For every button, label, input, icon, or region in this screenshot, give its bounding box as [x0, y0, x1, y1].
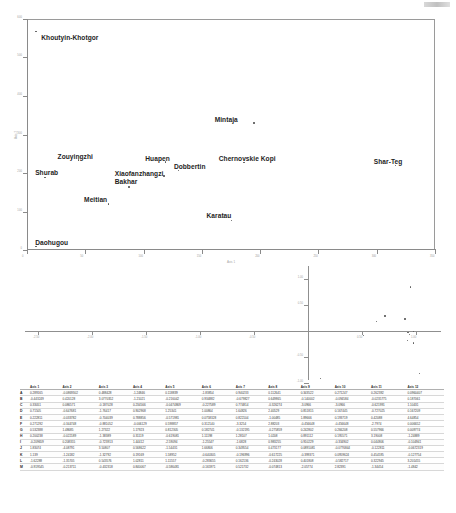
- table-cell: -0.165971: [202, 464, 236, 470]
- loadings-y-tick-label: 0.50: [298, 302, 303, 305]
- locality-label: Bakhar: [115, 178, 138, 185]
- scan-corner-mark: [424, 2, 450, 7]
- scanned-page: Axis 2 Axis 1 6005004003002001000 050100…: [0, 0, 456, 513]
- data-point: [395, 165, 397, 167]
- locality-label: Khoutyin-Khotgor: [41, 34, 98, 41]
- x-tick: 250: [318, 249, 319, 254]
- locality-label: Meitian: [84, 196, 107, 203]
- loadings-x-tick-label: -2.00: [87, 336, 93, 339]
- locality-label: Chernovskie Kopi: [219, 155, 276, 162]
- table-cell: -1.34454: [371, 464, 407, 470]
- locality-label: Shar-Teg: [374, 158, 403, 165]
- loadings-y-tick-label: -0.50: [297, 354, 303, 357]
- loadings-x-tick-label: -1.00: [195, 336, 201, 339]
- locality-label: Daohugou: [35, 239, 68, 246]
- locality-label: Zouyingzhi: [58, 153, 93, 160]
- data-point: [178, 170, 180, 172]
- loadings-y-tick: 0.50: [304, 305, 309, 306]
- x-tick: 50: [85, 249, 86, 254]
- loadings-y-tick: 1.00: [304, 279, 309, 280]
- x-tick-label: 250: [313, 255, 317, 258]
- table-cell: -1.4842: [407, 464, 444, 470]
- data-point: [163, 175, 165, 177]
- y-tick: 400: [23, 96, 28, 97]
- table-cell: -0.213711: [62, 464, 98, 470]
- data-point: [128, 186, 130, 188]
- loadings-x-tick-label: 0.50: [357, 336, 362, 339]
- coordinates-table: Axis 1Axis 2Axis 3Axis 4Axis 5Axis 6Axis…: [20, 384, 444, 471]
- y-tick-label: 500: [17, 54, 22, 57]
- y-tick-label: 400: [17, 93, 22, 96]
- table-cell: -0.432318: [99, 464, 133, 470]
- x-tick: 300: [377, 249, 378, 254]
- loadings-y-tick-label: 1.00: [298, 276, 303, 279]
- x-tick-label: 350: [430, 255, 434, 258]
- loadings-y-tick: -0.50: [304, 357, 309, 358]
- locality-label: Karatau: [207, 212, 232, 219]
- horizontal-axis-line: [25, 331, 441, 332]
- y-tick-label: 100: [17, 209, 22, 212]
- locality-ordination-scatter: Axis 2 Axis 1 6005004003002001000 050100…: [27, 19, 435, 250]
- x-axis-line: [27, 249, 435, 250]
- loadings-x-tick: -0.50: [254, 331, 255, 335]
- y-tick: 100: [23, 212, 28, 213]
- loadings-x-tick: -1.50: [146, 331, 147, 335]
- y-tick-label: 200: [17, 170, 22, 173]
- data-point: [44, 177, 46, 179]
- table-cell: -0.586481: [165, 464, 201, 470]
- vertical-axis-line: [308, 266, 309, 380]
- loadings-x-tick-label: 1.00: [411, 336, 416, 339]
- data-point: [35, 31, 37, 33]
- table-cell: -2.05774: [301, 464, 335, 470]
- locality-label: Xiaofanzhangzi: [115, 170, 164, 177]
- loadings-x-tick: 1.00: [416, 331, 417, 335]
- data-point: [231, 220, 233, 222]
- locality-label: Shurab: [35, 169, 58, 176]
- y-tick: 200: [23, 173, 28, 174]
- x-tick: 0: [27, 249, 28, 254]
- loadings-x-tick: -2.00: [92, 331, 93, 335]
- y-tick: 600: [23, 19, 28, 20]
- y-tick: 300: [23, 135, 28, 136]
- loadings-x-tick-label: -0.50: [249, 336, 255, 339]
- data-point: [253, 122, 255, 124]
- x-tick-label: 0: [22, 255, 23, 258]
- x-tick: 200: [260, 249, 261, 254]
- table-body: A0.289165-0.08693020.488428-1.248460.118…: [20, 390, 444, 470]
- table-cell: -0.919545: [30, 464, 62, 470]
- x-tick: 100: [144, 249, 145, 254]
- y-tick: 500: [23, 57, 28, 58]
- x-tick-label: 150: [197, 255, 201, 258]
- loadings-x-tick-label: -1.50: [141, 336, 147, 339]
- locality-label: Mintaja: [215, 116, 238, 123]
- y-tick-label: 300: [17, 132, 22, 135]
- x-tick-label: 50: [80, 255, 83, 258]
- y-tick-label: 0: [20, 247, 22, 250]
- loadings-x-tick: -2.50: [38, 331, 39, 335]
- table-cell: -0.074813: [268, 464, 300, 470]
- table-cell: 2.82391: [335, 464, 371, 470]
- table-cell: 0.521732: [236, 464, 268, 470]
- x-tick: 150: [202, 249, 203, 254]
- loadings-x-tick: -1.00: [200, 331, 201, 335]
- x-tick-label: 300: [372, 255, 376, 258]
- table-row: M-0.919545-0.213711-0.4323180.840067-0.5…: [20, 464, 444, 470]
- x-tick-label: 200: [255, 255, 259, 258]
- loadings-y-tick-label: -1.00: [297, 380, 303, 383]
- data-point: [108, 203, 110, 205]
- x-tick-label: 100: [139, 255, 143, 258]
- axis-coordinates-table: Axis 1Axis 2Axis 3Axis 4Axis 5Axis 6Axis…: [20, 384, 444, 471]
- y-tick-label: 600: [17, 16, 22, 19]
- locality-label: Dobbertin: [174, 163, 206, 170]
- axis-loadings-plot: 1.000.50-0.50-1.00 -2.50-2.00-1.50-1.00-…: [10, 262, 446, 384]
- row-label: M: [20, 464, 30, 470]
- loadings-x-tick-label: -2.50: [33, 336, 39, 339]
- locality-label: Huapen: [145, 155, 169, 162]
- table-cell: 0.840067: [133, 464, 165, 470]
- x-tick: 350: [435, 249, 436, 254]
